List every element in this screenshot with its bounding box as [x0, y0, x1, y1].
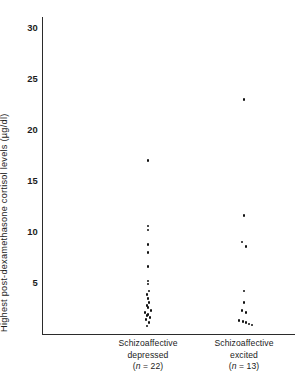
x-axis-group-captions: Schizoaffectivedepressed(n = 22)Schizoaf…: [42, 338, 295, 382]
data-point: [242, 320, 245, 323]
y-tick-label-10: 10: [0, 227, 38, 236]
data-point: [148, 290, 151, 293]
group-name-line1: Schizoaffective: [184, 338, 304, 350]
data-point: [147, 159, 150, 162]
data-point: [147, 243, 150, 246]
data-point: [243, 214, 246, 217]
group-caption-schizoaffective-excited: Schizoaffectiveexcited(n = 13): [184, 338, 304, 373]
data-point: [251, 324, 254, 327]
y-tick-label-30: 30: [0, 23, 38, 32]
y-tick-label-5: 5: [0, 278, 38, 287]
data-point: [147, 229, 150, 232]
data-point: [243, 98, 246, 101]
data-point: [245, 321, 248, 324]
data-point: [147, 280, 150, 283]
data-point: [147, 225, 150, 228]
y-tick-label-20: 20: [0, 125, 38, 134]
data-point: [150, 309, 153, 312]
data-point: [146, 325, 149, 328]
data-point: [243, 290, 246, 293]
data-point: [238, 319, 241, 322]
data-point: [147, 306, 150, 309]
data-point: [146, 293, 149, 296]
data-point: [241, 241, 244, 244]
dot-plot-figure: Highest post-dexamethasone cortisol leve…: [0, 0, 307, 382]
data-point: [148, 321, 151, 324]
y-tick-label-25: 25: [0, 74, 38, 83]
data-point: [245, 245, 248, 248]
data-point: [145, 318, 148, 321]
data-point: [148, 301, 151, 304]
data-point: [147, 265, 150, 268]
y-axis-tick-labels: 30252015105: [0, 0, 38, 340]
data-point: [241, 309, 244, 312]
data-point: [245, 311, 248, 314]
y-tick-label-15: 15: [0, 176, 38, 185]
data-point: [146, 314, 149, 317]
data-point: [147, 251, 150, 254]
plot-area: [42, 17, 295, 335]
group-sample-size: (n = 13): [184, 361, 304, 373]
data-point: [147, 297, 150, 300]
data-point: [147, 283, 150, 286]
data-point: [149, 316, 152, 319]
data-point: [248, 323, 251, 326]
data-point: [243, 301, 246, 304]
group-name-line2: excited: [184, 350, 304, 362]
